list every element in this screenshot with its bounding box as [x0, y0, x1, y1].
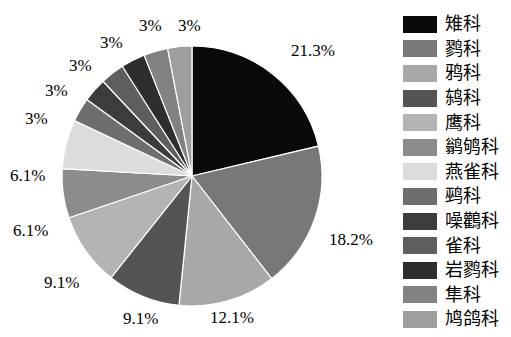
legend-item-label: 燕雀科: [445, 163, 499, 181]
legend-item-label: 噪鸛科: [445, 212, 499, 230]
legend-item[interactable]: 岩鹨科: [402, 258, 511, 283]
legend-color-swatch: [402, 236, 438, 255]
legend-color-swatch: [402, 261, 438, 280]
legend-item[interactable]: 燕雀科: [402, 160, 511, 185]
pie-value-label: 9.1%: [44, 274, 79, 291]
pie-value-label: 21.3%: [291, 42, 335, 59]
legend-color-swatch: [402, 89, 438, 108]
legend-color-swatch: [402, 15, 438, 34]
legend-item[interactable]: 鹰科: [402, 110, 511, 135]
legend-color-swatch: [402, 64, 438, 83]
legend-item-label: 鸫科: [445, 89, 481, 107]
pie-value-label: 3%: [69, 57, 92, 74]
legend-item[interactable]: 鸫科: [402, 86, 511, 111]
pie-value-label: 3%: [45, 82, 68, 99]
pie-slice-group: [62, 46, 322, 306]
legend-item-label: 鹀科: [445, 187, 481, 205]
pie-value-label: 9.1%: [123, 310, 158, 327]
pie-value-label: 3%: [100, 34, 123, 51]
legend-color-swatch: [402, 138, 438, 157]
legend-item-label: 鹟鸲科: [445, 138, 499, 156]
legend-item[interactable]: 鹀科: [402, 184, 511, 209]
legend-color-swatch: [402, 162, 438, 181]
pie-value-label: 3%: [178, 17, 201, 34]
legend-item-label: 鹨科: [445, 40, 481, 58]
legend-color-swatch: [402, 113, 438, 132]
legend-item-label: 雀科: [445, 237, 481, 255]
legend-color-swatch: [402, 212, 438, 231]
legend-item-label: 鹰科: [445, 114, 481, 132]
legend-item[interactable]: 鸠鸽科: [402, 307, 511, 332]
legend-item-label: 鸦科: [445, 64, 481, 82]
legend-color-swatch: [402, 310, 438, 329]
chart-legend: 雉科鹨科鸦科鸫科鹰科鹟鸲科燕雀科鹀科噪鸛科雀科岩鹨科隼科鸠鸽科: [402, 12, 511, 332]
legend-item[interactable]: 鸦科: [402, 61, 511, 86]
legend-item[interactable]: 噪鸛科: [402, 209, 511, 234]
legend-item[interactable]: 鹨科: [402, 37, 511, 62]
legend-color-swatch: [402, 285, 438, 304]
pie-value-label: 12.1%: [210, 309, 254, 326]
legend-color-swatch: [402, 39, 438, 58]
pie-value-label: 3%: [139, 17, 162, 34]
pie-value-label: 18.2%: [329, 231, 373, 248]
legend-item[interactable]: 雉科: [402, 12, 511, 37]
legend-item-label: 岩鹨科: [445, 261, 499, 279]
legend-item[interactable]: 雀科: [402, 233, 511, 258]
legend-color-swatch: [402, 187, 438, 206]
legend-item[interactable]: 隼科: [402, 283, 511, 308]
legend-item-label: 雉科: [445, 15, 481, 33]
pie-value-label: 6.1%: [13, 222, 48, 239]
legend-item-label: 鸠鸽科: [445, 310, 499, 328]
pie-chart-figure: 21.3%18.2%12.1%9.1%9.1%6.1%6.1%3%3%3%3%3…: [0, 0, 511, 337]
legend-item[interactable]: 鹟鸲科: [402, 135, 511, 160]
legend-item-label: 隼科: [445, 286, 481, 304]
pie-value-label: 6.1%: [10, 167, 45, 184]
pie-value-label: 3%: [25, 110, 48, 127]
